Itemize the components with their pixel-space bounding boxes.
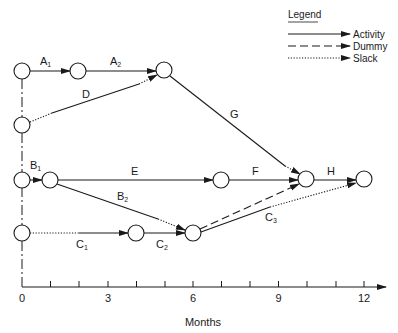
legend-title: Legend	[288, 9, 321, 20]
label-e: E	[131, 165, 138, 177]
label-g: G	[230, 108, 239, 120]
node-3	[156, 62, 172, 78]
tick-label-12: 12	[358, 292, 370, 304]
label-b2: B2	[117, 190, 128, 203]
edge-b2-activity	[57, 184, 158, 219]
edge-d-activity	[52, 84, 139, 113]
tick-label-6: 6	[190, 292, 196, 304]
label-a2: A2	[110, 55, 121, 68]
label-c2: C2	[156, 238, 168, 251]
node-2	[70, 63, 86, 79]
node-7	[213, 172, 229, 188]
tick-label-9: 9	[275, 292, 281, 304]
label-d: D	[82, 88, 90, 100]
nodes	[14, 62, 372, 241]
tick-label-0: 0	[19, 292, 25, 304]
axis-title: Months	[185, 316, 222, 328]
legend-activity-label: Activity	[353, 29, 385, 40]
legend-dummy-label: Dummy	[353, 41, 387, 52]
edges	[30, 71, 356, 233]
edge-g-activity	[170, 76, 285, 166]
node-12	[185, 225, 201, 241]
label-a1: A1	[40, 55, 51, 68]
edge-c3-activity	[201, 207, 270, 232]
label-b1: B1	[30, 159, 41, 172]
label-h: H	[327, 165, 335, 177]
node-8	[298, 171, 314, 187]
legend: Legend Activity Dummy Slack	[288, 9, 387, 64]
label-c3: C3	[265, 211, 277, 224]
time-axis: 0 3 6 9 12 Months	[19, 281, 386, 328]
node-5	[14, 172, 30, 188]
edge-g-slack	[285, 166, 300, 174]
node-11	[128, 225, 144, 241]
edge-d-slack	[30, 113, 52, 122]
legend-slack-label: Slack	[353, 53, 378, 64]
edge-labels: A1 A2 D G B1 E F H B2 C1 C2 C3	[30, 55, 335, 251]
edge-dummy	[200, 184, 299, 229]
node-1	[14, 63, 30, 79]
edge-c3-slack	[270, 183, 356, 207]
axis-ticks	[51, 281, 365, 287]
node-9	[356, 171, 372, 187]
edge-b2-slack	[158, 219, 185, 230]
node-4	[14, 117, 30, 133]
edge-d-tail	[139, 75, 157, 84]
node-10	[14, 225, 30, 241]
label-f: F	[252, 165, 259, 177]
label-c1: C1	[76, 238, 88, 251]
network-diagram: Legend Activity Dummy Slack 0 3 6 9	[0, 0, 398, 333]
node-6	[42, 172, 58, 188]
tick-label-3: 3	[105, 292, 111, 304]
